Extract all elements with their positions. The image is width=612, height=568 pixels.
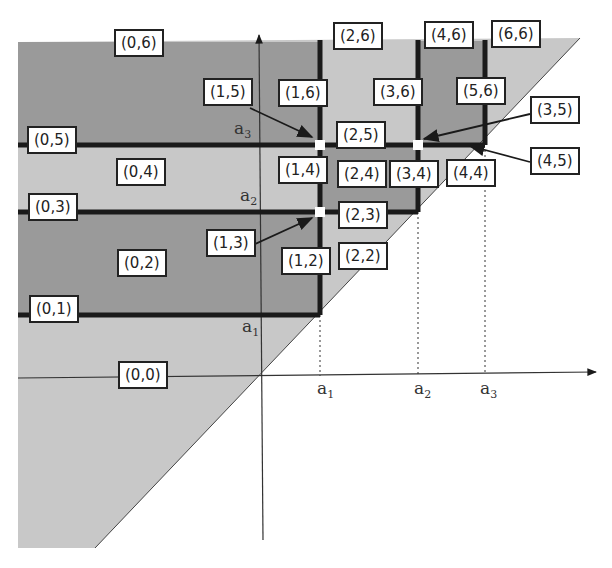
region-label-2-3: (2,3) (338, 201, 388, 229)
junction-1-3 (315, 207, 325, 217)
junction-1-5 (315, 140, 325, 150)
region-label-3-6: (3,6) (373, 78, 423, 106)
region-label-4-5: (4,5) (530, 147, 580, 175)
x-tick-a2: a2 (414, 378, 431, 401)
region-label-5-6: (5,6) (456, 77, 506, 105)
y-tick-a3: a3 (234, 118, 251, 141)
region-label-0-6: (0,6) (114, 29, 164, 57)
region-label-6-6: (6,6) (491, 20, 541, 48)
region-label-0-1: (0,1) (29, 295, 79, 323)
region-label-1-5: (1,5) (203, 78, 253, 106)
region-label-1-3: (1,3) (206, 229, 256, 257)
region-label-2-5: (2,5) (336, 121, 386, 149)
region-label-4-6: (4,6) (424, 21, 474, 49)
region-label-2-4: (2,4) (337, 160, 387, 188)
region-label-4-4: (4,4) (446, 159, 496, 187)
region-label-0-2: (0,2) (117, 249, 167, 277)
region-label-3-4: (3,4) (389, 160, 439, 188)
region-label-1-6: (1,6) (278, 79, 328, 107)
junction-3-5 (413, 140, 423, 150)
x-tick-a3: a3 (480, 378, 497, 401)
region-label-2-6: (2,6) (333, 22, 383, 50)
region-label-0-3: (0,3) (28, 193, 78, 221)
region-label-2-2: (2,2) (338, 242, 388, 270)
y-tick-a1: a1 (242, 316, 259, 339)
x-tick-a1: a1 (317, 378, 334, 401)
y-tick-a2: a2 (240, 185, 257, 208)
region-label-1-2: (1,2) (281, 247, 331, 275)
region-label-0-4: (0,4) (116, 158, 166, 186)
region-label-1-4: (1,4) (278, 156, 328, 184)
region-label-0-5: (0,5) (27, 126, 77, 154)
region-label-3-5: (3,5) (530, 96, 580, 124)
region-label-0-0: (0,0) (118, 361, 168, 389)
